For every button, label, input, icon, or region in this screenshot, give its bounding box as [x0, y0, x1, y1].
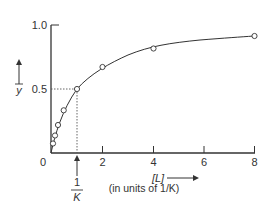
- one-over-k-denominator: K: [73, 191, 81, 203]
- y-tick-label-05: 0.5: [32, 83, 47, 95]
- data-point: [61, 108, 66, 113]
- binding-curve-chart: 1.0 0.5 0 2 4 6 8 y 1 K [L] (in units of…: [0, 0, 271, 212]
- x-tick-label-8: 8: [251, 156, 257, 168]
- x-tick-label-0: 0: [40, 156, 46, 168]
- data-point: [252, 33, 257, 38]
- data-point: [50, 141, 55, 146]
- y-axis-label: y: [15, 84, 23, 96]
- data-point: [52, 133, 57, 138]
- data-point: [74, 86, 79, 91]
- x-axis-units: (in units of 1/K): [109, 182, 180, 194]
- data-point: [100, 64, 105, 69]
- x-tick-label-2: 2: [99, 156, 105, 168]
- y-tick-label-1: 1.0: [32, 19, 47, 31]
- binding-curve: [51, 36, 254, 153]
- data-point: [55, 122, 60, 127]
- x-tick-label-4: 4: [150, 156, 156, 168]
- x-tick-label-6: 6: [201, 156, 207, 168]
- one-over-k-numerator: 1: [74, 176, 80, 188]
- data-point: [151, 46, 156, 51]
- axes: [51, 25, 255, 153]
- data-points: [50, 33, 257, 146]
